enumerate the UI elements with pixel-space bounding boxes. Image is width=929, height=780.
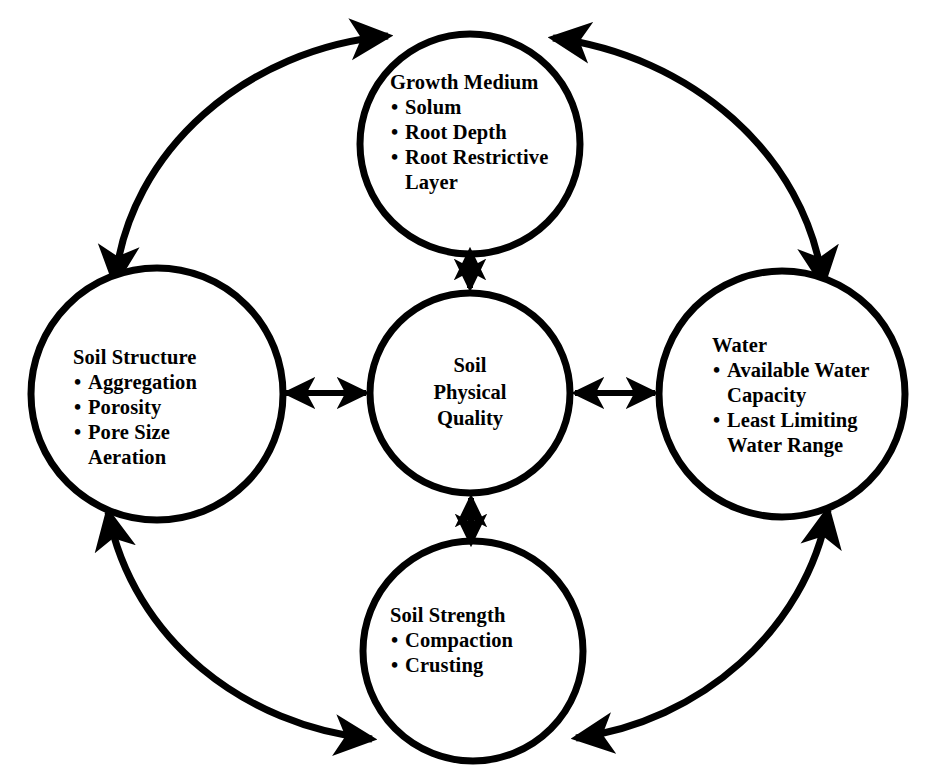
- bullet-item: Aggregation: [73, 370, 273, 395]
- node-label-water: Water Available Water Capacity Least Lim…: [712, 333, 912, 458]
- bullet-item: Porosity: [73, 395, 273, 420]
- bullet-item: Available Water Capacity: [712, 358, 912, 408]
- bullet-item: Pore Size Aeration: [73, 420, 273, 470]
- arc-growth-water: [553, 38, 823, 284]
- node-label-growth-medium: Growth Medium Solum Root Depth Root Rest…: [390, 70, 570, 195]
- arc-strength-structure: [108, 512, 372, 739]
- node-bullets-water: Available Water Capacity Least Limiting …: [712, 358, 912, 458]
- node-title-soil-strength: Soil Strength: [390, 603, 590, 628]
- soil-physical-quality-diagram: Growth Medium Solum Root Depth Root Rest…: [0, 0, 929, 780]
- center-line-1: Soil: [370, 352, 570, 379]
- node-bullets-growth-medium: Solum Root Depth Root Restrictive Layer: [390, 95, 570, 195]
- bullet-item: Root Depth: [390, 120, 570, 145]
- node-title-soil-structure: Soil Structure: [73, 345, 273, 370]
- bullet-item: Least Limiting Water Range: [712, 408, 912, 458]
- node-label-soil-strength: Soil Strength Compaction Crusting: [390, 603, 590, 678]
- node-title-growth-medium: Growth Medium: [390, 70, 570, 95]
- node-bullets-soil-structure: Aggregation Porosity Pore Size Aeration: [73, 370, 273, 470]
- bullet-item: Compaction: [390, 628, 590, 653]
- node-bullets-soil-strength: Compaction Crusting: [390, 628, 590, 678]
- bullet-item: Solum: [390, 95, 570, 120]
- center-line-2: Physical: [370, 379, 570, 406]
- node-title-water: Water: [712, 333, 912, 358]
- bullet-item: Root Restrictive Layer: [390, 145, 570, 195]
- node-label-soil-structure: Soil Structure Aggregation Porosity Pore…: [73, 345, 273, 470]
- node-label-center: Soil Physical Quality: [370, 352, 570, 432]
- arc-water-strength: [576, 510, 828, 738]
- bullet-item: Crusting: [390, 653, 590, 678]
- center-line-3: Quality: [370, 405, 570, 432]
- arc-structure-growth: [115, 36, 388, 283]
